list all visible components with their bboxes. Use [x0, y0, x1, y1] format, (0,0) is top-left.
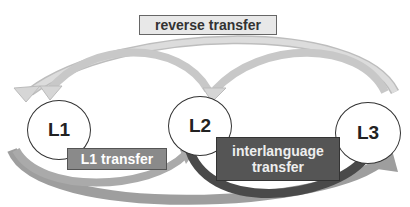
interlanguage-transfer-label: interlanguage transfer — [216, 137, 340, 181]
transfer-diagram: reverse transfer L1 L2 L3 L1 transfer in… — [0, 0, 410, 207]
l1-transfer-label: L1 transfer — [67, 148, 167, 170]
reverse-transfer-label: reverse transfer — [139, 15, 277, 35]
interlanguage-line1: interlanguage — [232, 143, 324, 159]
arrow-l2-to-l1 — [40, 53, 208, 101]
arrow-l3-to-l2 — [203, 53, 385, 102]
interlanguage-line2: transfer — [252, 159, 304, 175]
node-l3: L3 — [335, 102, 401, 164]
